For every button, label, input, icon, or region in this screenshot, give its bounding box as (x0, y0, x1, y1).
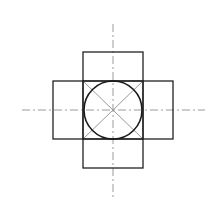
diagram-canvas (0, 0, 214, 219)
cross-diagram (0, 0, 214, 219)
